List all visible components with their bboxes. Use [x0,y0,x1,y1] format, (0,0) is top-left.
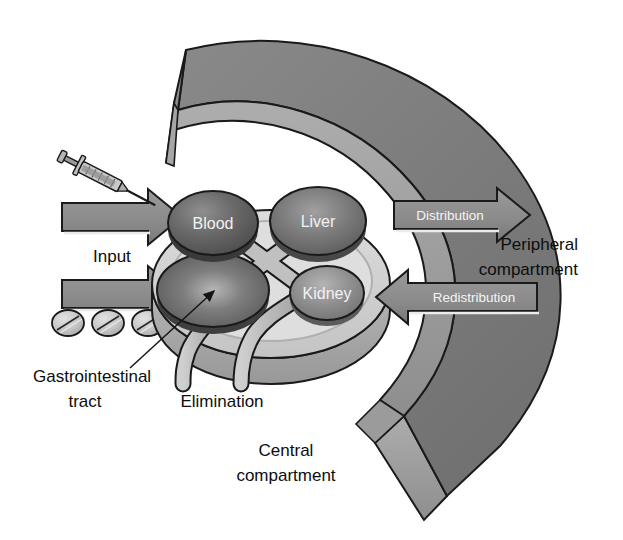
redistribution-label: Redistribution [433,290,516,305]
organ-liver[interactable]: Liver [270,187,366,262]
organ-kidney[interactable]: Kidney [290,266,364,326]
peripheral-compartment-label-line1: Peripheral [501,235,579,254]
organ-gastrointestinal-tract[interactable] [157,253,269,334]
pharmacokinetics-diagram: Input [0,0,623,540]
elimination-label: Elimination [180,392,263,411]
peripheral-compartment-label-line2: compartment [479,260,578,279]
diagram-canvas: Input [0,0,623,540]
gastrointestinal-tract-label-line1: Gastrointestinal [33,367,151,386]
central-compartment-label-line1: Central [259,441,314,460]
liver-label: Liver [301,213,336,230]
pill-icon-1 [52,310,84,336]
blood-label: Blood [193,215,234,232]
pill-group [52,310,164,336]
kidney-label: Kidney [303,285,352,302]
pill-icon-2 [92,310,124,336]
distribution-label: Distribution [416,208,484,223]
input-label: Input [93,247,131,266]
arc-left-end-cap [166,103,178,166]
input-arrow-upper[interactable] [62,189,182,245]
central-compartment-label-line2: compartment [236,466,335,485]
gastrointestinal-tract-label-line2: tract [68,392,101,411]
organ-blood[interactable]: Blood [168,191,258,262]
gi-body [157,253,269,327]
